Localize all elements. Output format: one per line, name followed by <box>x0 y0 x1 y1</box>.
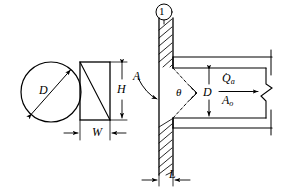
cone-angle-label: θ <box>176 87 181 98</box>
wall-outline <box>159 18 173 175</box>
wall-thickness-dimension <box>142 175 190 186</box>
engineering-figure: D H W A θ D Q·a Ao L 1 <box>0 0 291 193</box>
section-marker-label: A <box>133 70 140 82</box>
circle-diameter-label: D <box>39 84 48 96</box>
circle-diameter-dimension <box>32 70 71 114</box>
flow-rate-label: Q·a <box>222 72 235 86</box>
area-label: Ao <box>222 94 233 108</box>
wall-section-hatch <box>159 19 172 175</box>
station-number-label: 1 <box>159 6 165 17</box>
flow-rate-subscript: a <box>231 77 235 86</box>
curved-leader-arrow <box>138 78 157 99</box>
flow-rate-overdot: · <box>224 69 227 79</box>
flow-direction-arrow <box>219 91 258 92</box>
rectangle-outline <box>80 62 110 120</box>
rect-height-label: H <box>117 83 126 95</box>
duct-diameter-label: D <box>203 86 212 98</box>
break-line-zigzag <box>261 68 272 118</box>
area-subscript: o <box>229 99 233 108</box>
rect-width-label: W <box>92 126 102 138</box>
wall-thickness-label: L <box>169 168 176 180</box>
